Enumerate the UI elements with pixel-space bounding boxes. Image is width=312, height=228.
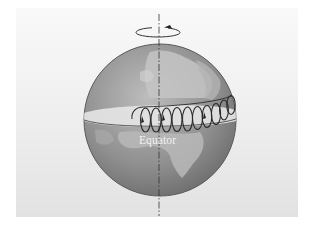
equator-label: Equator bbox=[139, 134, 176, 146]
earth-rotation-diagram bbox=[0, 0, 312, 228]
counterclockwise-rotation-arrow-icon bbox=[136, 25, 180, 37]
diagram-stage: Equator bbox=[0, 0, 312, 228]
